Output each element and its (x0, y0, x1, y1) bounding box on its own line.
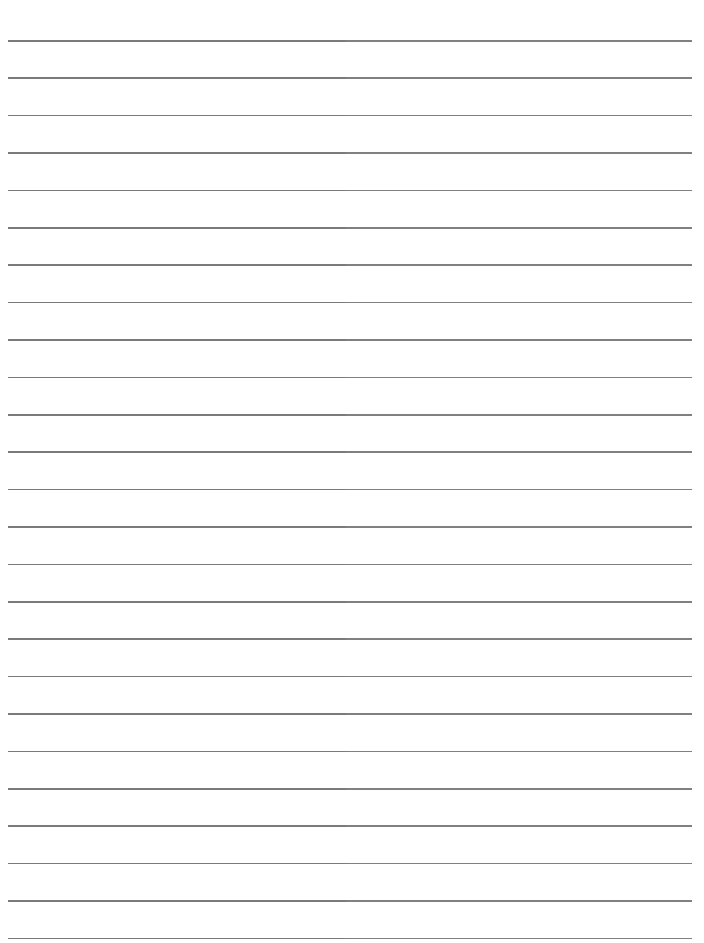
ruled-line-right-segment (346, 825, 692, 827)
ruled-line (8, 190, 692, 192)
ruled-line (8, 489, 692, 491)
ruled-line-right-segment (346, 302, 692, 304)
ruled-line-right-segment (346, 77, 692, 79)
ruled-line (8, 564, 692, 566)
ruled-line-right-segment (346, 900, 692, 902)
ruled-line-right-segment (346, 377, 692, 379)
ruled-line (8, 264, 692, 266)
ruled-line (8, 676, 692, 678)
ruled-line-right-segment (346, 414, 692, 416)
ruled-line (8, 302, 692, 304)
ruled-line-right-segment (346, 601, 692, 603)
ruled-line-right-segment (346, 751, 692, 753)
lined-paper-sheet (0, 0, 704, 943)
ruled-line (8, 900, 692, 902)
ruled-line (8, 938, 692, 940)
ruled-line-right-segment (346, 526, 692, 528)
ruled-line-right-segment (346, 564, 692, 566)
ruled-line-right-segment (346, 227, 692, 229)
ruled-line-right-segment (346, 863, 692, 865)
ruled-line-right-segment (346, 152, 692, 154)
ruled-line-right-segment (346, 339, 692, 341)
ruled-line-right-segment (346, 115, 692, 117)
ruled-line-right-segment (346, 264, 692, 266)
ruled-line (8, 339, 692, 341)
ruled-line-right-segment (346, 190, 692, 192)
ruled-line (8, 377, 692, 379)
ruled-line (8, 863, 692, 865)
ruled-line-right-segment (346, 489, 692, 491)
ruled-line (8, 40, 692, 42)
ruled-line (8, 601, 692, 603)
ruled-line (8, 713, 692, 715)
ruled-line (8, 227, 692, 229)
ruled-line (8, 751, 692, 753)
ruled-line-right-segment (346, 676, 692, 678)
ruled-line (8, 526, 692, 528)
ruled-line-right-segment (346, 938, 692, 940)
ruled-line (8, 77, 692, 79)
ruled-line (8, 825, 692, 827)
ruled-line-right-segment (346, 638, 692, 640)
ruled-line (8, 451, 692, 453)
ruled-line-right-segment (346, 788, 692, 790)
ruled-line-right-segment (346, 451, 692, 453)
ruled-line (8, 152, 692, 154)
ruled-line (8, 638, 692, 640)
ruled-line-right-segment (346, 40, 692, 42)
ruled-line-right-segment (346, 713, 692, 715)
ruled-line (8, 115, 692, 117)
ruled-line (8, 414, 692, 416)
ruled-line (8, 788, 692, 790)
